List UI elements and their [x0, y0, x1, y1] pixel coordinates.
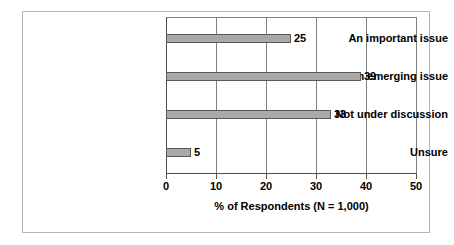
- x-axis-tick-label: 50: [396, 180, 436, 193]
- x-axis-tick-label: 10: [196, 180, 236, 193]
- x-axis-tick: [366, 174, 367, 179]
- bar-value-label: 39: [364, 72, 376, 81]
- bar-an-emerging-issue: [166, 72, 361, 81]
- bar-value-label: 33: [334, 110, 346, 119]
- x-axis-tick: [416, 174, 417, 179]
- x-axis-tick-label: 20: [246, 180, 286, 193]
- bar-an-important-issue: [166, 34, 291, 43]
- bar-chart-figure: 0 10 20 30 40 50 An important issue An e…: [0, 0, 454, 245]
- x-axis-tick: [266, 174, 267, 179]
- x-axis-tick: [316, 174, 317, 179]
- x-axis-tick-label: 30: [296, 180, 336, 193]
- x-axis-tick: [166, 174, 167, 179]
- x-axis-tick: [216, 174, 217, 179]
- bar-not-under-discussion: [166, 110, 331, 119]
- category-label: An important issue: [294, 32, 454, 44]
- x-axis-title: % of Respondents (N = 1,000): [166, 199, 417, 213]
- category-label: Unsure: [294, 146, 454, 158]
- x-axis-tick-label: 40: [346, 180, 386, 193]
- bar-value-label: 5: [194, 148, 200, 157]
- bar-value-label: 25: [294, 34, 306, 43]
- bar-unsure: [166, 148, 191, 157]
- x-axis-tick-label: 0: [146, 180, 186, 193]
